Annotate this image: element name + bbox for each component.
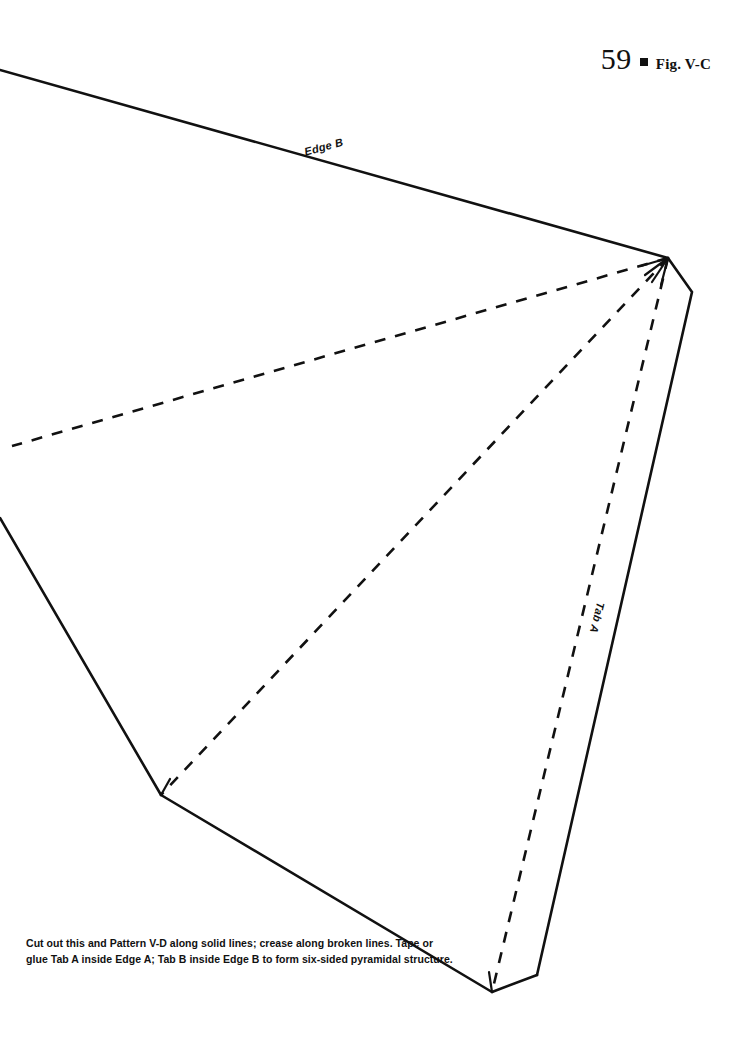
crease-middle <box>161 258 668 795</box>
vertex-tick-lower-middle <box>161 779 170 795</box>
crease-upper <box>12 258 668 446</box>
crease-tab-fold <box>492 258 668 992</box>
pattern-page: 59 Fig. V-C <box>0 0 745 1038</box>
apex-convergence-ticks <box>641 258 668 285</box>
lower-left-cut-line <box>0 518 161 795</box>
edge-b-cut-line <box>0 70 668 258</box>
tab-a-bottom-cut-line <box>492 975 537 992</box>
caption-line-2: glue Tab A inside Edge A; Tab B inside E… <box>26 952 456 968</box>
instruction-caption: Cut out this and Pattern V-D along solid… <box>26 936 456 967</box>
solid-cut-lines <box>0 70 692 992</box>
tab-a-outer-cut-line <box>537 258 692 975</box>
pattern-drawing <box>0 0 745 1038</box>
caption-line-1: Cut out this and Pattern V-D along solid… <box>26 936 456 952</box>
dashed-crease-lines <box>12 258 668 992</box>
